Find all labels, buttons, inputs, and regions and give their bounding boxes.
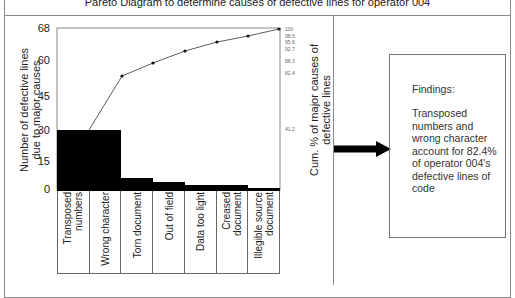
category-label: Wrong character — [100, 192, 111, 272]
findings-body: Transposed numbers and wrong character a… — [412, 107, 502, 195]
category-label: Transposed numbers — [62, 192, 84, 272]
bars — [57, 130, 280, 191]
bar-torn-document — [121, 178, 153, 191]
category-labels: Transposed numbers Wrong character Torn … — [57, 191, 280, 274]
findings-title: Findings: — [412, 83, 455, 95]
category-cell: Torn document — [120, 191, 152, 273]
cumulative-line — [89, 29, 279, 130]
category-cell: Transposed numbers — [57, 191, 89, 273]
category-cell: Out of field — [152, 191, 184, 273]
category-cell: Wrong character — [89, 191, 121, 273]
arrow-right-icon — [334, 141, 392, 157]
category-cell: Illegible source document — [247, 191, 280, 273]
category-cell: Data too light — [184, 191, 216, 273]
bar-transposed-wrong — [57, 130, 121, 191]
cumulative-points — [120, 27, 280, 77]
category-label: Out of field — [163, 192, 174, 272]
category-label: Data too light — [195, 192, 206, 272]
category-label: Illegible source document — [253, 192, 275, 272]
category-label: Creased document — [221, 192, 243, 272]
category-cell: Creased document — [216, 191, 248, 273]
findings-box: Findings: Transposed numbers and wrong c… — [389, 54, 506, 238]
bar-out-of-field — [153, 182, 185, 191]
category-label: Torn document — [131, 192, 142, 272]
